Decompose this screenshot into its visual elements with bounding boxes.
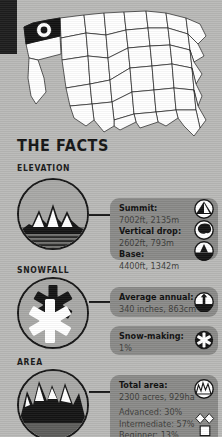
snowflake-pair-icon (17, 277, 89, 349)
terrain-area-icon (194, 379, 214, 399)
section-label-elevation: ELEVATION (17, 163, 222, 173)
section-elevation: ELEVATION (0, 163, 222, 265)
jagged-peaks-icon (17, 369, 89, 437)
facts-panel: THE FACTS ELEVATION (0, 136, 222, 437)
base-hill-icon (194, 241, 214, 261)
usa-locator-map (0, 0, 222, 142)
vertical-drop-icon (194, 220, 214, 240)
section-snowfall: SNOWFALL (0, 265, 222, 357)
elevation-icon (17, 178, 89, 250)
page-title: THE FACTS (17, 136, 222, 155)
section-label-area: AREA (17, 357, 222, 367)
snowflake-icon (194, 330, 214, 350)
mountain-range-icon (17, 178, 89, 250)
area-icon (17, 369, 89, 437)
page-edge-strip (0, 0, 17, 54)
summit-peak-icon (194, 199, 214, 219)
snow-depth-arrow-icon (194, 292, 214, 312)
snowfall-icon (17, 277, 89, 349)
section-area: AREA Total area: 2300 acres, 929ha Advan… (0, 357, 222, 437)
section-label-snowfall: SNOWFALL (17, 265, 222, 275)
